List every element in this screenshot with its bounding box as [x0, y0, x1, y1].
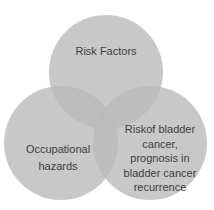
label-line: bladder cancer	[112, 166, 208, 181]
label-line: Riskof bladder	[112, 122, 208, 137]
label-line: prognosis in	[112, 151, 208, 166]
label-bladder-cancer-risk: Riskof bladder cancer, prognosis in blad…	[112, 122, 208, 195]
venn-diagram: Risk Factors Occupational hazards Riskof…	[0, 0, 214, 210]
label-line: recurrence	[112, 180, 208, 195]
label-line: hazards	[8, 158, 108, 175]
label-occupational-hazards: Occupational hazards	[8, 141, 108, 175]
label-line: Risk Factors	[49, 44, 163, 58]
label-line: Occupational	[8, 141, 108, 158]
label-line: cancer,	[112, 137, 208, 152]
label-risk-factors: Risk Factors	[49, 44, 163, 58]
